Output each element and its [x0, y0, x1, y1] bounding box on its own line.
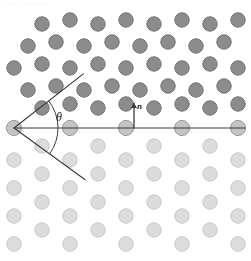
lower-grain-atom — [7, 153, 21, 167]
upper-grain-atom — [161, 35, 175, 49]
normal-vector-label: n — [137, 101, 142, 111]
lower-grain-atom — [231, 209, 245, 223]
lower-grain-atom-group — [7, 139, 245, 251]
lower-grain-atom — [91, 195, 105, 209]
upper-grain-atom — [91, 17, 105, 31]
lower-grain-atom — [203, 195, 217, 209]
lower-grain-atom — [91, 139, 105, 153]
lower-grain-atom — [147, 139, 161, 153]
angle-arc — [49, 101, 58, 154]
grain-boundary-figure: · ··· ·· ···· θ n — [0, 0, 251, 261]
upper-grain-atom — [203, 57, 217, 71]
lower-grain-atom — [119, 153, 133, 167]
lower-grain-atom — [231, 237, 245, 251]
upper-grain-atom — [217, 35, 231, 49]
upper-grain-atom — [119, 97, 133, 111]
upper-grain-atom — [77, 83, 91, 97]
upper-grain-atom — [161, 79, 175, 93]
lower-grain-atom — [35, 139, 49, 153]
upper-grain-atom — [189, 39, 203, 53]
lower-grain-atom — [91, 167, 105, 181]
upper-grain-atom — [21, 83, 35, 97]
upper-grain-atom — [21, 39, 35, 53]
lower-grain-atom — [147, 167, 161, 181]
upper-grain-atom — [133, 83, 147, 97]
upper-grain-atom — [35, 57, 49, 71]
lower-grain-atom — [175, 181, 189, 195]
upper-grain-atom — [175, 61, 189, 75]
upper-grain-atom — [91, 57, 105, 71]
upper-grain-atom — [175, 13, 189, 27]
upper-grain-atom — [147, 57, 161, 71]
lower-grain-atom — [175, 237, 189, 251]
upper-grain-atom — [231, 61, 245, 75]
angle-symbol-label: θ — [56, 110, 62, 125]
upper-grain-atom — [35, 101, 49, 115]
upper-grain-atom — [7, 61, 21, 75]
upper-grain-atom — [91, 101, 105, 115]
upper-grain-atom — [63, 61, 77, 75]
upper-grain-atom — [133, 39, 147, 53]
lower-grain-atom — [119, 209, 133, 223]
lower-grain-atom — [7, 209, 21, 223]
lower-grain-atom — [147, 223, 161, 237]
upper-grain-atom — [231, 97, 245, 111]
upper-grain-atom — [147, 17, 161, 31]
lower-grain-atom — [175, 209, 189, 223]
lower-grain-atom — [203, 223, 217, 237]
upper-grain-atom — [147, 101, 161, 115]
upper-grain-atom — [49, 35, 63, 49]
lower-grain-atom — [203, 139, 217, 153]
lower-grain-atom — [35, 223, 49, 237]
lower-grain-atom — [63, 237, 77, 251]
upper-grain-atom — [119, 61, 133, 75]
upper-grain-atom — [175, 97, 189, 111]
upper-grain-atom — [77, 39, 91, 53]
upper-grain-atom — [63, 13, 77, 27]
upper-grain-atom — [105, 35, 119, 49]
lower-grain-atom — [7, 181, 21, 195]
upper-grain-atom — [189, 83, 203, 97]
lower-grain-atom — [35, 195, 49, 209]
lower-grain-atom — [147, 195, 161, 209]
upper-grain-atom — [231, 13, 245, 27]
upper-grain-atom — [119, 13, 133, 27]
lower-grain-atom — [63, 181, 77, 195]
upper-grain-atom — [203, 101, 217, 115]
upper-grain-atom — [217, 79, 231, 93]
lower-grain-atom — [119, 181, 133, 195]
lower-grain-atom — [175, 153, 189, 167]
upper-grain-atom-group — [7, 13, 245, 115]
upper-grain-atom — [63, 97, 77, 111]
lower-grain-atom — [119, 237, 133, 251]
upper-grain-atom — [35, 17, 49, 31]
lattice-diagram — [0, 0, 251, 261]
lower-grain-atom — [203, 167, 217, 181]
upper-grain-atom — [105, 79, 119, 93]
lower-grain-atom — [35, 167, 49, 181]
lower-grain-atom — [231, 181, 245, 195]
lower-grain-atom — [231, 153, 245, 167]
upper-grain-atom — [203, 17, 217, 31]
lower-grain-atom — [7, 237, 21, 251]
lower-grain-atom — [63, 209, 77, 223]
lower-grain-atom — [91, 223, 105, 237]
